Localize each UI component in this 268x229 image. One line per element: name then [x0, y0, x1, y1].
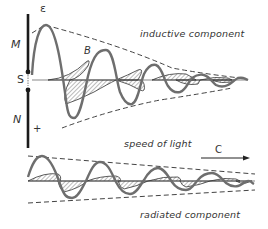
inductive-component-label: inductive component	[140, 28, 244, 39]
electric-field-label: ε	[40, 2, 46, 15]
speed-of-light-label: speed of light	[124, 138, 192, 149]
b-field-lobe	[148, 177, 181, 181]
inductive-component-plot	[32, 25, 248, 128]
b-field-lobe	[65, 80, 116, 104]
radiated-component-label: radiated component	[140, 209, 240, 220]
radiated-component-plot	[28, 156, 255, 204]
speed-arrow-icon	[201, 156, 250, 161]
b-field-lobe	[152, 74, 196, 80]
plus-sign-label: +	[33, 123, 41, 134]
magnet-n-label: N	[13, 113, 21, 126]
magnetic-field-label: B	[84, 45, 91, 56]
magnet-s-label: S	[17, 73, 24, 86]
terminal-dot-bottom	[26, 88, 31, 93]
magnet-m-label: M	[11, 38, 21, 51]
b-field-lobe	[116, 70, 142, 81]
c-symbol-label: C	[215, 144, 222, 155]
radiated-envelope-top	[28, 156, 255, 174]
b-field-lobe	[48, 61, 89, 80]
terminal-dot-top	[26, 70, 31, 75]
antenna-bar	[26, 14, 31, 148]
